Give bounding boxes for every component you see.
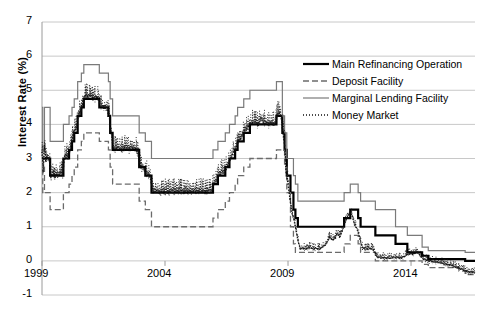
y-tick-label: 6 — [6, 48, 32, 60]
legend-swatch-dashed-icon — [303, 75, 329, 87]
x-tick-label: 2009 — [270, 267, 330, 279]
y-tick-label: 5 — [6, 82, 32, 94]
y-tick-label: 2 — [6, 185, 32, 197]
legend-swatch-dotted-icon — [303, 109, 329, 121]
interest-rate-chart: Interest Rate (%) 76543210-1 19992004200… — [0, 0, 487, 316]
x-tick-label: 2004 — [147, 267, 207, 279]
y-tick-label: 1 — [6, 219, 32, 231]
x-tick-label: 2014 — [393, 267, 453, 279]
legend-item: Deposit Facility — [303, 72, 462, 89]
legend-item: Marginal Lending Facility — [303, 89, 462, 106]
y-tick-label: 0 — [6, 253, 32, 265]
y-tick-label: 7 — [6, 14, 32, 26]
legend-item: Main Refinancing Operation — [303, 55, 462, 72]
legend-label: Marginal Lending Facility — [332, 92, 448, 104]
y-tick-label: 4 — [6, 116, 32, 128]
legend-swatch-solid-thin-icon — [303, 92, 329, 104]
y-tick-label: 3 — [6, 151, 32, 163]
chart-legend: Main Refinancing OperationDeposit Facili… — [303, 55, 462, 123]
legend-label: Money Market — [332, 109, 399, 121]
legend-label: Deposit Facility — [332, 75, 403, 87]
x-tick-label: 1999 — [24, 267, 84, 279]
legend-item: Money Market — [303, 106, 462, 123]
legend-swatch-solid-thick-icon — [303, 58, 329, 70]
y-tick-label: -1 — [6, 287, 32, 299]
legend-label: Main Refinancing Operation — [332, 58, 462, 70]
